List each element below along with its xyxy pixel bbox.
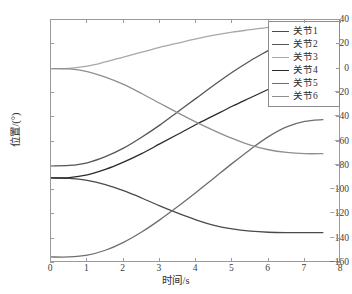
y-tick-mark — [50, 68, 54, 69]
y-tick-mark — [336, 165, 340, 166]
y-tick-mark — [336, 189, 340, 190]
legend-label: 关节3 — [293, 51, 318, 64]
x-tick-mark — [268, 258, 269, 262]
x-tick-label: 1 — [84, 263, 89, 273]
y-tick-mark — [50, 238, 54, 239]
x-tick-mark — [231, 19, 232, 23]
x-tick-mark — [268, 19, 269, 23]
x-tick-mark — [340, 258, 341, 262]
y-tick-mark — [50, 189, 54, 190]
series-line-1 — [51, 178, 323, 233]
y-axis-title: 位置/(°) — [7, 80, 22, 180]
x-tick-label: 5 — [229, 263, 234, 273]
x-tick-label: 6 — [265, 263, 270, 273]
y-tick-mark — [50, 141, 54, 142]
y-tick-mark — [336, 92, 340, 93]
legend-label: 关节2 — [293, 38, 318, 51]
x-tick-mark — [304, 19, 305, 23]
y-tick-mark — [50, 92, 54, 93]
y-tick-mark — [336, 116, 340, 117]
x-tick-mark — [123, 258, 124, 262]
legend-item-1[interactable]: 关节1 — [272, 25, 336, 38]
legend-item-3[interactable]: 关节3 — [272, 51, 336, 64]
x-tick-mark — [50, 19, 51, 23]
y-tick-mark — [336, 141, 340, 142]
y-tick-mark — [336, 213, 340, 214]
legend-label: 关节6 — [293, 90, 318, 103]
legend-item-5[interactable]: 关节5 — [272, 77, 336, 90]
x-tick-mark — [123, 19, 124, 23]
x-tick-label: 3 — [156, 263, 161, 273]
x-tick-mark — [195, 19, 196, 23]
x-tick-mark — [159, 258, 160, 262]
x-tick-mark — [159, 19, 160, 23]
x-tick-mark — [50, 258, 51, 262]
legend-item-6[interactable]: 关节6 — [272, 90, 336, 103]
x-tick-label: 0 — [48, 263, 53, 273]
legend-line-swatch — [272, 31, 289, 32]
x-tick-mark — [86, 19, 87, 23]
x-tick-mark — [195, 258, 196, 262]
y-tick-mark — [50, 165, 54, 166]
legend-line-swatch — [272, 57, 289, 58]
x-tick-label: 4 — [193, 263, 198, 273]
x-tick-mark — [86, 258, 87, 262]
x-tick-mark — [340, 19, 341, 23]
x-tick-mark — [231, 258, 232, 262]
legend-line-swatch — [272, 96, 289, 97]
y-tick-mark — [50, 116, 54, 117]
legend-item-2[interactable]: 关节2 — [272, 38, 336, 51]
x-tick-label: 7 — [301, 263, 306, 273]
y-tick-label: 20 — [340, 38, 350, 48]
x-tick-mark — [304, 258, 305, 262]
x-tick-label: 8 — [338, 263, 343, 273]
legend-line-swatch — [272, 83, 289, 84]
legend-label: 关节4 — [293, 64, 318, 77]
x-axis-title: 时间/s — [0, 272, 352, 287]
chart-root: 时间/s 位置/(°) 关节1关节2关节3关节4关节5关节6 40200−20−… — [0, 0, 352, 294]
y-tick-mark — [336, 68, 340, 69]
y-tick-mark — [336, 43, 340, 44]
x-tick-label: 2 — [120, 263, 125, 273]
y-tick-mark — [50, 213, 54, 214]
legend-line-swatch — [272, 70, 289, 71]
y-tick-mark — [336, 238, 340, 239]
y-tick-mark — [50, 43, 54, 44]
legend-label: 关节5 — [293, 77, 318, 90]
series-line-5 — [51, 120, 323, 257]
y-tick-label: 0 — [344, 63, 349, 73]
legend-label: 关节1 — [293, 25, 318, 38]
legend-line-swatch — [272, 44, 289, 45]
legend: 关节1关节2关节3关节4关节5关节6 — [268, 21, 340, 107]
legend-item-4[interactable]: 关节4 — [272, 64, 336, 77]
